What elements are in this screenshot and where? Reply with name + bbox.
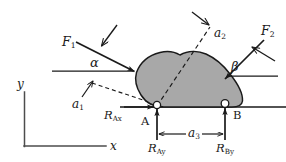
reaction-rby-label: RBy bbox=[216, 143, 234, 155]
f2-pointer-arrow bbox=[252, 47, 275, 61]
f1-pointer-arrow bbox=[102, 25, 118, 46]
dimension-a3-label: a3 bbox=[188, 127, 200, 140]
a1-pointer-arrow bbox=[82, 81, 93, 97]
coordinate-axes bbox=[24, 92, 106, 147]
f1-force-arrow bbox=[76, 42, 135, 72]
support-b-label: B bbox=[233, 110, 241, 122]
support-a-pin-marker bbox=[153, 101, 160, 108]
a2-pointer-arrow bbox=[192, 12, 209, 25]
reaction-rax-label: RAx bbox=[104, 110, 122, 122]
y-axis-label: y bbox=[17, 78, 24, 90]
dimension-a2-label: a2 bbox=[214, 27, 226, 40]
diagram-canvas bbox=[0, 0, 286, 162]
force-f2-label: F2 bbox=[261, 25, 275, 38]
free-body-diagram: y x F1 α F2 β a1 a2 a3 RAx RAy RBy A B bbox=[0, 0, 286, 162]
angle-beta-label: β bbox=[231, 60, 239, 73]
force-f1-label: F1 bbox=[62, 36, 76, 49]
support-a-label: A bbox=[141, 116, 149, 128]
support-b-roller-marker bbox=[221, 100, 229, 108]
reaction-ray-label: RAy bbox=[148, 143, 166, 155]
x-axis-label: x bbox=[110, 140, 117, 152]
rigid-body-shape bbox=[136, 51, 243, 107]
dimension-a1-label: a1 bbox=[72, 98, 84, 111]
angle-alpha-label: α bbox=[90, 56, 99, 69]
